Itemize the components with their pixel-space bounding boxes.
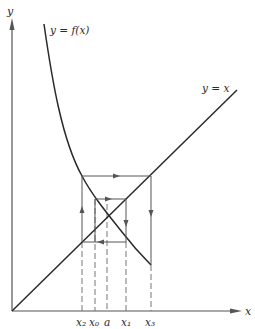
x-axis [12,309,242,314]
tick-label-x3: x₃ [145,316,155,328]
identity-line-label: y = x [201,82,229,94]
arrow-right-icon [113,174,120,179]
arrow-up-icon [80,206,85,213]
y-axis-arrow-icon [10,18,15,30]
tick-label-x0: x₀ [89,316,100,328]
f-curve [44,24,151,265]
y-axis [10,18,15,311]
cobweb-diagram: y x y = x y = f(x) x₂ [0,0,255,329]
x-axis-arrow-icon [230,309,242,314]
arrow-left-icon [97,240,104,245]
x-axis-label: x [245,305,252,318]
f-curve-label: y = f(x) [49,24,89,36]
tick-label-x1: x₁ [121,316,131,328]
arrow-right-icon [105,197,112,202]
tick-label-x2: x₂ [76,316,86,328]
arrow-down-icon [149,210,154,217]
x-tick-labels: x₂ x₀ a x₁ x₃ [76,316,155,328]
arrow-down-icon [124,220,129,227]
cobweb-path [82,176,151,265]
tick-label-a: a [104,316,110,328]
y-axis-label: y [6,5,14,18]
identity-line [12,90,237,311]
